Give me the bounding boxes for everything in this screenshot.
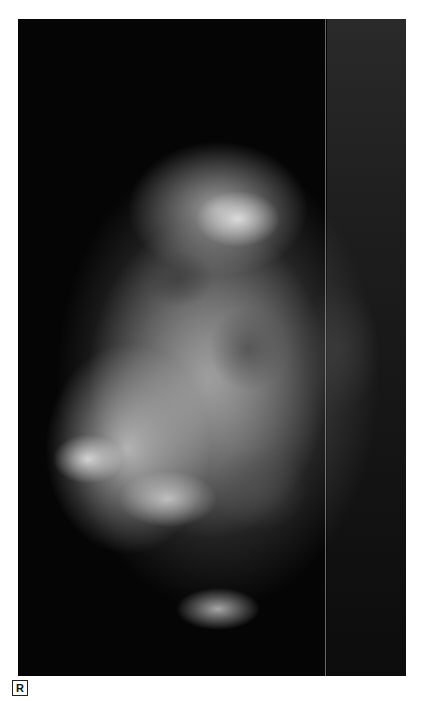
scan-artifact-line: [325, 19, 326, 676]
xray-film: [18, 19, 406, 676]
breast-tissue: [18, 19, 406, 676]
laterality-marker: R: [12, 680, 28, 696]
